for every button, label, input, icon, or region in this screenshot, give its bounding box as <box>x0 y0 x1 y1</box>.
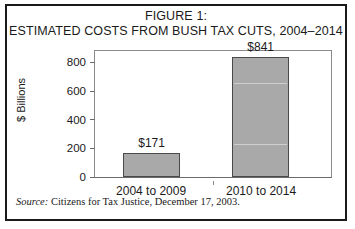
figure-title: FIGURE 1: ESTIMATED COSTS FROM BUSH TAX … <box>7 9 345 39</box>
figure-frame: FIGURE 1: ESTIMATED COSTS FROM BUSH TAX … <box>5 4 347 221</box>
bar-2004-2009[interactable] <box>123 153 181 177</box>
y-axis-tick-label-400: 400 <box>67 114 90 126</box>
y-axis-tick-200: 200 <box>67 142 95 154</box>
bar-group-2004-2009: $171 <box>123 51 181 177</box>
figure-title-line-1: FIGURE 1: <box>7 9 345 24</box>
source-note: Source: Citizens for Tax Justice, Decemb… <box>16 196 240 207</box>
bars-layer: $171 $841 <box>95 51 331 177</box>
figure-title-line-2: ESTIMATED COSTS FROM BUSH TAX CUTS, 2004… <box>7 24 345 39</box>
x-axis-tick-mark-center <box>213 181 214 185</box>
source-text: Citizens for Tax Justice, December 17, 2… <box>48 196 240 207</box>
bar-group-2010-2014: $841 <box>232 51 290 177</box>
y-axis-tick-label-0: 0 <box>80 171 90 183</box>
y-axis-tick-label-600: 600 <box>67 85 90 97</box>
bar-scan-band-lower <box>234 144 288 145</box>
y-axis-tick-400: 400 <box>67 114 95 126</box>
bar-scan-band-upper <box>234 83 288 84</box>
y-axis-tick-0: 0 <box>80 171 95 183</box>
y-axis-tick-600: 600 <box>67 85 95 97</box>
bar-value-label-2004-2009: $171 <box>138 136 165 150</box>
chart-area: $ Billions 0 200 400 600 800 <box>7 42 349 192</box>
y-axis-tick-800: 800 <box>67 56 95 68</box>
bar-value-label-2010-2014: $841 <box>247 40 274 54</box>
y-axis-tick-label-200: 200 <box>67 142 90 154</box>
plot-area: 0 200 400 600 800 $171 <box>94 50 332 178</box>
source-label: Source: <box>16 196 48 207</box>
bar-2010-2014[interactable] <box>232 57 290 177</box>
y-axis-title: $ Billions <box>15 60 27 140</box>
y-axis-tick-label-800: 800 <box>67 56 90 68</box>
